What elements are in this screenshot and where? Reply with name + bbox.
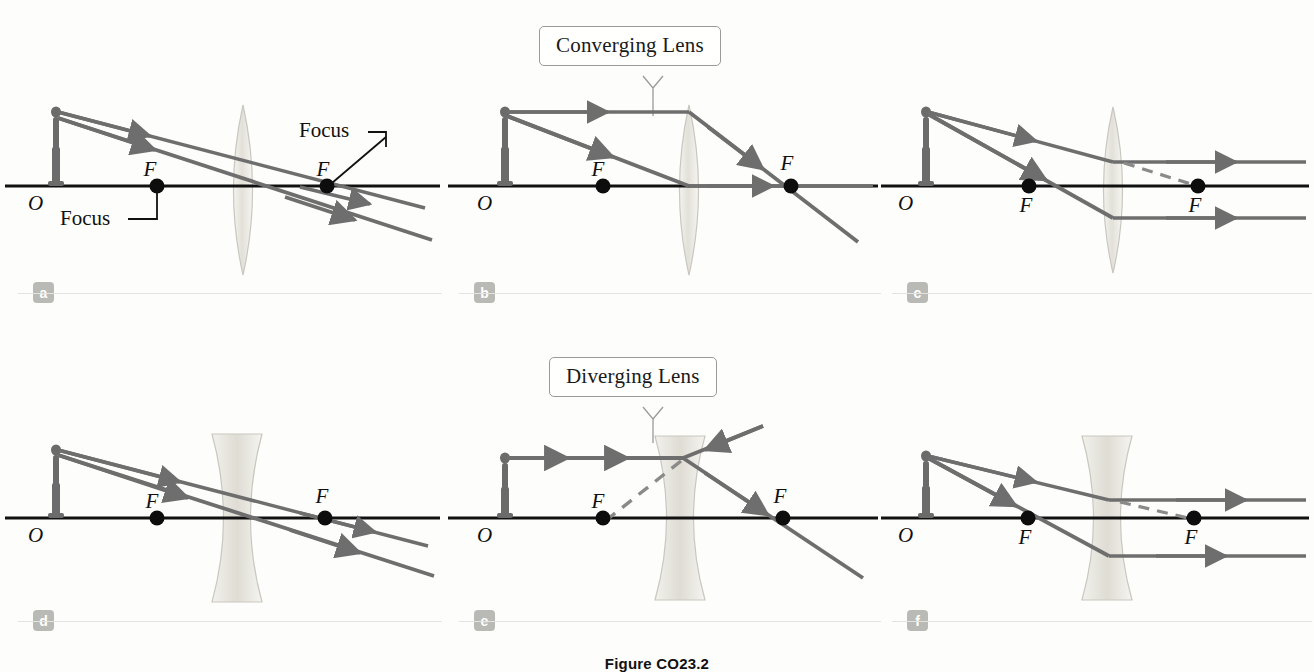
panel-d: O F F d [0, 418, 445, 618]
focal-point-far [318, 511, 333, 526]
panel-b-diagram: O F F [443, 90, 883, 290]
focal-point-far [1191, 179, 1206, 194]
label-origin: O [477, 191, 492, 215]
label-focal-far: F [1184, 525, 1198, 549]
converging-lens-shape [1104, 107, 1123, 273]
callout-converging-lens-label: Converging Lens [556, 33, 704, 57]
label-focal-far: F [773, 484, 787, 508]
object-person [497, 453, 513, 519]
label-focal-near: F [145, 489, 159, 513]
ray-diverged-arrow [705, 426, 763, 450]
callout-diverging-lens: Diverging Lens [549, 357, 717, 397]
panel-a-diagram: O F F Focus Focus [0, 90, 445, 290]
panel-f-diagram: O F F [876, 418, 1314, 618]
figure-caption: Figure CO23.2 [0, 655, 1314, 672]
label-focal-far: F [780, 151, 794, 175]
virtual-ray-dashed [1124, 163, 1194, 185]
ray-upper-arrow [928, 112, 1036, 141]
label-focal-near: F [143, 157, 157, 181]
label-focal-far: F [1188, 193, 1202, 217]
panel-f: O F F f [876, 418, 1314, 618]
label-focal-near: F [591, 157, 605, 181]
ray-upper-exit-arrow [300, 513, 375, 532]
label-focal-near: F [1018, 525, 1032, 549]
panel-divider-d [18, 621, 442, 622]
panel-b: O F F b [443, 90, 883, 290]
panel-divider-c [892, 293, 1312, 294]
ray-2-exit-arrow [285, 197, 355, 220]
ray-refracted-arrow [708, 127, 763, 169]
callout-converging-lens: Converging Lens [539, 26, 721, 66]
panel-divider-b [459, 293, 881, 294]
converging-lens-shape [234, 105, 253, 275]
ray-oblique-arrow [507, 116, 613, 157]
label-origin: O [477, 523, 492, 547]
ray-center-arrow [705, 473, 768, 515]
panel-a: O F F Focus Focus a [0, 90, 445, 290]
leader-line-focus-upper [332, 137, 386, 183]
leader-line-focus-lower [128, 190, 157, 219]
focal-point-far [1187, 511, 1202, 526]
ray-lower-arrow [928, 114, 1046, 180]
ray-upper-arrow [58, 450, 180, 482]
panel-e-diagram: O F F [443, 418, 883, 618]
focal-point-near [1021, 511, 1036, 526]
panel-divider-e [459, 621, 881, 622]
virtual-ray-dashed [1120, 502, 1188, 518]
focal-point-far [784, 179, 799, 194]
focal-point-near [1022, 179, 1037, 194]
panel-d-diagram: O F F [0, 418, 445, 618]
callout-diverging-lens-label: Diverging Lens [566, 364, 700, 388]
converging-lens-shape [680, 105, 699, 275]
panel-c-diagram: O F F [876, 90, 1314, 290]
label-focal-near: F [591, 489, 605, 513]
panel-divider-f [892, 621, 1312, 622]
label-focal-near: F [1019, 193, 1033, 217]
label-focal-far: F [316, 157, 330, 181]
panel-e: O F F e [443, 418, 883, 618]
ray-lower-exit-arrow [290, 530, 360, 553]
label-origin: O [28, 191, 43, 215]
panel-divider-a [18, 293, 442, 294]
focal-point-far [776, 511, 791, 526]
panel-c: O F F c [876, 90, 1314, 290]
ray-lower-arrow [58, 455, 188, 498]
annotation-focus-upper: Focus [299, 118, 349, 142]
label-origin: O [898, 523, 913, 547]
annotation-focus-lower: Focus [60, 206, 110, 230]
label-origin: O [28, 523, 43, 547]
label-focal-far: F [315, 484, 329, 508]
label-origin: O [898, 191, 913, 215]
object-person [918, 107, 934, 187]
